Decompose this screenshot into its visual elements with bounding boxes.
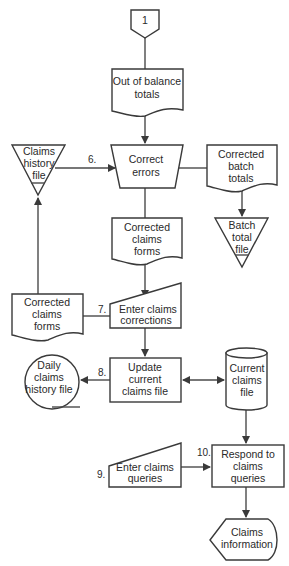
label: Out of balance — [113, 75, 181, 87]
label: claims — [32, 308, 62, 320]
label: claims — [34, 371, 64, 383]
label: history — [24, 157, 56, 169]
label: claims — [233, 460, 263, 472]
storage-claims-history-file: Claims history file — [12, 145, 65, 195]
label: Current — [229, 362, 264, 374]
label: Claims — [23, 145, 55, 157]
document-out-of-balance-totals: Out of balance totals — [112, 69, 183, 116]
label: Correct — [129, 153, 164, 165]
step-number-10: 10. — [197, 447, 211, 458]
label: forms — [34, 320, 60, 332]
document-corrected-claims-forms-left: Corrected claims forms — [12, 294, 83, 341]
label: claims — [132, 233, 162, 245]
step-number-6: 6. — [88, 154, 96, 165]
step-number-7: 7. — [98, 304, 106, 315]
label: totals — [134, 88, 159, 100]
step-number-9: 9. — [97, 469, 105, 480]
flowchart-canvas: 1 Out of balance totals Claims history f… — [0, 0, 289, 566]
label: batch — [228, 160, 254, 172]
label: file — [235, 243, 249, 255]
label: totals — [228, 172, 253, 184]
process-update-current-claims-file: Update current claims file — [110, 358, 181, 402]
label: Respond to — [221, 448, 275, 460]
label: file — [240, 386, 254, 398]
label: Update — [128, 361, 162, 373]
disk-current-claims-file: Current claims file — [226, 348, 267, 410]
manual-input-enter-claims-queries: Enter claims queries — [109, 443, 181, 487]
process-respond-to-claims-queries: Respond to claims queries — [212, 445, 284, 487]
label: total — [232, 231, 252, 243]
step-number-8: 8. — [98, 367, 106, 378]
label: Daily — [37, 359, 61, 371]
label: queries — [128, 472, 162, 484]
storage-batch-total-file: Batch total file — [215, 218, 268, 267]
off-page-connector-1: 1 — [131, 10, 159, 38]
label: current — [129, 373, 162, 385]
label: history file — [25, 383, 72, 395]
label: information — [221, 538, 273, 550]
label: Batch — [229, 219, 256, 231]
tape-daily-claims-history-file: Daily claims history file — [25, 355, 80, 409]
display-claims-information: Claims information — [210, 519, 277, 560]
label: Corrected — [218, 148, 264, 160]
document-corrected-claims-forms-center: Corrected claims forms — [112, 218, 182, 265]
label: corrections — [120, 314, 171, 326]
connector-label: 1 — [142, 14, 148, 26]
label: Corrected — [24, 296, 70, 308]
label: queries — [231, 472, 265, 484]
label: file — [32, 169, 46, 181]
label: forms — [134, 245, 160, 257]
document-corrected-batch-totals: Corrected batch totals — [207, 145, 277, 192]
label: claims — [232, 374, 262, 386]
label: Claims — [231, 526, 263, 538]
manual-operation-correct-errors: Correct errors — [111, 145, 183, 188]
label: errors — [132, 166, 159, 178]
label: Corrected — [124, 221, 170, 233]
label: claims file — [122, 385, 168, 397]
